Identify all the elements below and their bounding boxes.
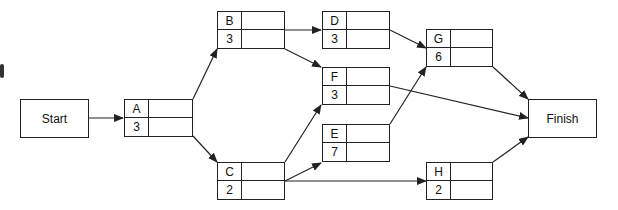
activity-lf-field bbox=[242, 30, 284, 48]
activity-duration: 3 bbox=[218, 30, 242, 48]
node-activity-g: G 6 bbox=[426, 29, 493, 67]
activity-id: F bbox=[323, 68, 347, 86]
activity-lf-field bbox=[347, 30, 389, 48]
node-activity-f: F 3 bbox=[322, 67, 390, 105]
edge-h-finish bbox=[493, 137, 528, 162]
activity-es-field bbox=[242, 163, 284, 181]
node-finish: Finish bbox=[528, 99, 597, 138]
edge-a-b bbox=[193, 49, 217, 99]
edge-a-c bbox=[193, 136, 217, 162]
node-activity-d: D 3 bbox=[322, 11, 390, 49]
activity-duration: 2 bbox=[218, 181, 242, 199]
activity-id: C bbox=[218, 163, 242, 181]
activity-lf-field bbox=[149, 118, 192, 136]
activity-es-field bbox=[347, 12, 389, 30]
activity-duration: 3 bbox=[125, 118, 149, 136]
activity-lf-field bbox=[347, 143, 389, 161]
activity-lf-field bbox=[451, 181, 492, 199]
connector-layer bbox=[0, 0, 618, 210]
activity-duration: 7 bbox=[323, 143, 347, 161]
activity-lf-field bbox=[347, 86, 389, 104]
activity-es-field bbox=[451, 30, 492, 48]
activity-duration: 6 bbox=[427, 48, 451, 66]
activity-es-field bbox=[242, 12, 284, 30]
activity-duration: 3 bbox=[323, 86, 347, 104]
activity-es-field bbox=[347, 125, 389, 143]
activity-id: D bbox=[323, 12, 347, 30]
node-activity-a: A 3 bbox=[124, 99, 193, 137]
activity-id: G bbox=[427, 30, 451, 48]
edge-c-e bbox=[285, 163, 321, 181]
scan-artifact bbox=[0, 64, 4, 78]
activity-es-field bbox=[149, 100, 192, 118]
activity-id: H bbox=[427, 163, 451, 181]
node-start: Start bbox=[20, 99, 89, 138]
node-finish-label: Finish bbox=[546, 112, 578, 126]
edge-e-g bbox=[390, 67, 426, 124]
edge-c-f bbox=[285, 105, 321, 162]
edge-g-finish bbox=[493, 67, 528, 99]
node-activity-b: B 3 bbox=[217, 11, 285, 49]
node-activity-c: C 2 bbox=[217, 162, 285, 200]
activity-lf-field bbox=[242, 181, 284, 199]
node-activity-e: E 7 bbox=[322, 124, 390, 162]
activity-id: B bbox=[218, 12, 242, 30]
node-start-label: Start bbox=[42, 112, 67, 126]
activity-id: E bbox=[323, 125, 347, 143]
edge-d-g bbox=[390, 30, 426, 48]
activity-id: A bbox=[125, 100, 149, 118]
activity-duration: 3 bbox=[323, 30, 347, 48]
activity-es-field bbox=[347, 68, 389, 86]
activity-lf-field bbox=[451, 48, 492, 66]
edge-b-f bbox=[285, 49, 321, 67]
node-activity-h: H 2 bbox=[426, 162, 493, 200]
activity-es-field bbox=[451, 163, 492, 181]
activity-duration: 2 bbox=[427, 181, 451, 199]
edge-f-finish bbox=[390, 86, 528, 118]
